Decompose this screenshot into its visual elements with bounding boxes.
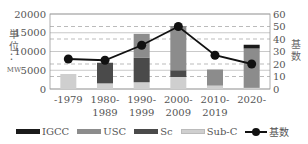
bar-segment-subc xyxy=(207,86,223,89)
legend-label-usc: USC xyxy=(103,126,126,137)
y2-tick-label: 20 xyxy=(273,59,286,70)
x-tick-label: 2000- xyxy=(164,94,193,105)
units-line xyxy=(68,27,251,65)
stacked-bar-line-chart: 050001000015000200000102030405060単位：MW基数… xyxy=(0,0,308,124)
bar-segment-usc xyxy=(170,26,186,70)
legend-label-units: 基数 xyxy=(269,124,289,139)
legend-item-usc: USC xyxy=(77,126,126,137)
bar-segment-subc xyxy=(134,82,150,89)
line-marker-icon xyxy=(245,128,267,136)
line-marker xyxy=(247,60,256,69)
y2-tick-label: 0 xyxy=(273,84,279,95)
x-tick-label: 1980- xyxy=(91,94,120,105)
y2-tick-label: 30 xyxy=(273,46,286,57)
bar-segment-sc xyxy=(170,70,186,77)
legend: IGCC USC Sc Sub-C 基数 xyxy=(16,124,297,139)
y2-axis-label: 基 xyxy=(291,38,301,50)
x-tick-label: 2010- xyxy=(201,94,230,105)
y2-tick-label: 50 xyxy=(273,21,286,32)
line-marker xyxy=(64,55,73,64)
line-marker xyxy=(211,51,220,60)
y2-tick-label: 40 xyxy=(273,34,286,45)
y-axis-label: ： xyxy=(9,51,19,62)
x-tick-label: 2009 xyxy=(166,107,191,118)
legend-swatch-subc xyxy=(181,129,205,134)
y-tick-label: 5000 xyxy=(21,65,46,76)
bar-segment-subc xyxy=(244,88,260,89)
bar-segment-subc xyxy=(170,77,186,89)
legend-swatch-usc xyxy=(77,129,101,134)
x-tick-label: 1989 xyxy=(92,107,117,118)
x-tick-label: 1990- xyxy=(127,94,156,105)
legend-label-subc: Sub-C xyxy=(207,126,238,137)
y-axis-label: MW xyxy=(7,66,22,74)
y-tick-label: 20000 xyxy=(14,9,46,20)
legend-label-sc: Sc xyxy=(160,126,172,137)
x-tick-label: 1999 xyxy=(129,107,154,118)
y2-tick-label: 10 xyxy=(273,71,286,82)
x-tick-label: 2020- xyxy=(237,94,266,105)
legend-label-igcc: IGCC xyxy=(42,126,69,137)
bar-segment-igcc xyxy=(244,45,260,49)
line-marker xyxy=(137,41,146,50)
y2-axis-label: 数 xyxy=(291,50,301,62)
legend-item-units: 基数 xyxy=(245,124,289,139)
bar-segment-subc xyxy=(97,83,113,89)
y2-tick-label: 60 xyxy=(273,9,286,20)
y-tick-label: 0 xyxy=(40,84,46,95)
x-tick-label: -1979 xyxy=(54,94,83,105)
bar-segment-subc xyxy=(60,74,76,89)
bar-segment-sc xyxy=(97,63,113,84)
legend-swatch-sc xyxy=(134,129,158,134)
legend-item-sc: Sc xyxy=(134,126,172,137)
legend-item-subc: Sub-C xyxy=(181,126,238,137)
x-tick-label: 2019 xyxy=(202,107,227,118)
bar-segment-usc xyxy=(207,70,223,86)
y-axis-label: 単 xyxy=(9,28,19,40)
bar-segment-sc xyxy=(134,58,150,82)
line-marker xyxy=(101,56,110,65)
legend-item-igcc: IGCC xyxy=(16,126,69,137)
line-marker xyxy=(174,22,183,31)
legend-swatch-igcc xyxy=(16,129,40,134)
